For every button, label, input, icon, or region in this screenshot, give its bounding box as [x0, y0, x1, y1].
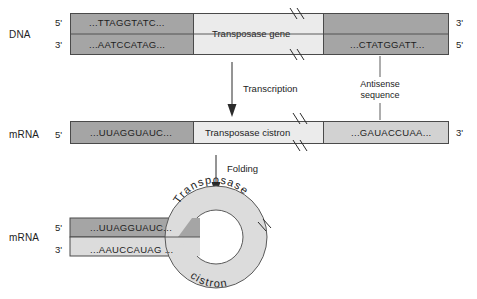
transcription-arrow [228, 62, 237, 117]
antisense-callout-line1: Antisense [352, 79, 408, 90]
folded-top-strand-sequence: ...UUAGGUAUC... [90, 222, 172, 233]
folding-arrow-label: Folding [227, 163, 258, 174]
transposon-expression-diagram: DNA 5' 3' ...TTAGGTATC... ...AATCCATAG..… [0, 0, 477, 299]
transcription-arrow-label: Transcription [243, 83, 298, 94]
antisense-callout-label: Antisense sequence [352, 79, 408, 101]
diagram-vector-layer: Transposase cistron [0, 0, 477, 299]
dna-break-mark-bottom [290, 49, 304, 60]
dna-break-mark-top [290, 8, 304, 19]
folded-bottom-strand-sequence: ...AAUCCAUAG ... [90, 244, 173, 255]
mrna-break-mark-top [293, 113, 307, 124]
antisense-callout-line2: sequence [352, 90, 408, 101]
mrna-break-mark-bottom [293, 140, 307, 151]
